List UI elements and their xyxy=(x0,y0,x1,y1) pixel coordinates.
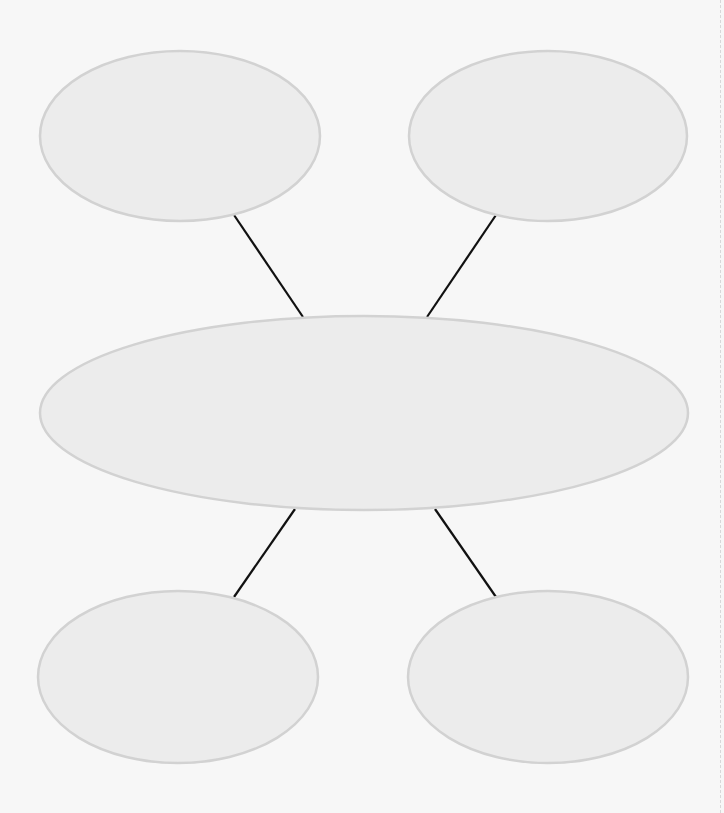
mind-map-canvas xyxy=(0,0,724,813)
page-edge-divider xyxy=(720,0,721,813)
connector-center-to-top-right xyxy=(427,215,496,317)
connector-center-to-top-left xyxy=(234,215,303,317)
node-center-label xyxy=(100,353,628,473)
node-bottom-right-label xyxy=(428,617,668,737)
node-bottom-left-label xyxy=(58,617,298,737)
connector-center-to-bottom-left xyxy=(234,509,295,597)
node-top-right-label xyxy=(429,76,669,196)
connector-center-to-bottom-right xyxy=(435,509,496,597)
node-top-left-label xyxy=(60,76,300,196)
